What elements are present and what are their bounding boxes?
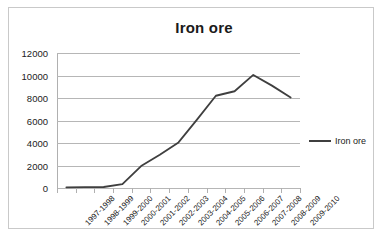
x-tick-8 <box>207 188 208 193</box>
x-tick-7 <box>188 188 189 193</box>
y-tick-label-6000: 6000 <box>27 115 48 126</box>
x-axis-ticks <box>57 188 300 193</box>
y-tick-label-8000: 8000 <box>27 93 48 104</box>
legend-label-iron-ore: Iron ore <box>335 136 366 146</box>
x-tick-2 <box>94 188 95 193</box>
x-tick-0 <box>57 188 58 193</box>
y-tick-label-10000: 10000 <box>22 70 48 81</box>
x-tick-11 <box>263 188 264 193</box>
chart-title: Iron ore <box>9 19 373 36</box>
plot-area <box>57 53 300 188</box>
x-tick-4 <box>132 188 133 193</box>
line-iron-ore <box>66 75 290 187</box>
x-tick-13 <box>300 188 301 193</box>
x-tick-1 <box>76 188 77 193</box>
y-tick-label-0: 0 <box>43 183 48 194</box>
x-tick-10 <box>244 188 245 193</box>
x-tick-9 <box>225 188 226 193</box>
x-tick-3 <box>113 188 114 193</box>
x-tick-5 <box>150 188 151 193</box>
x-axis-tick-labels: 1997-19981998-19991999-20002000-20012001… <box>57 194 300 242</box>
legend-line-swatch <box>309 140 331 143</box>
y-axis-tick-labels: 020004000600080001000012000 <box>9 53 53 188</box>
chart-legend: Iron ore <box>309 136 366 146</box>
series-line-iron-ore <box>57 53 300 188</box>
chart-container: Iron ore 020004000600080001000012000 199… <box>8 7 374 229</box>
y-tick-label-4000: 4000 <box>27 138 48 149</box>
y-tick-label-2000: 2000 <box>27 160 48 171</box>
x-tick-6 <box>169 188 170 193</box>
y-tick-label-12000: 12000 <box>22 48 48 59</box>
x-tick-12 <box>281 188 282 193</box>
